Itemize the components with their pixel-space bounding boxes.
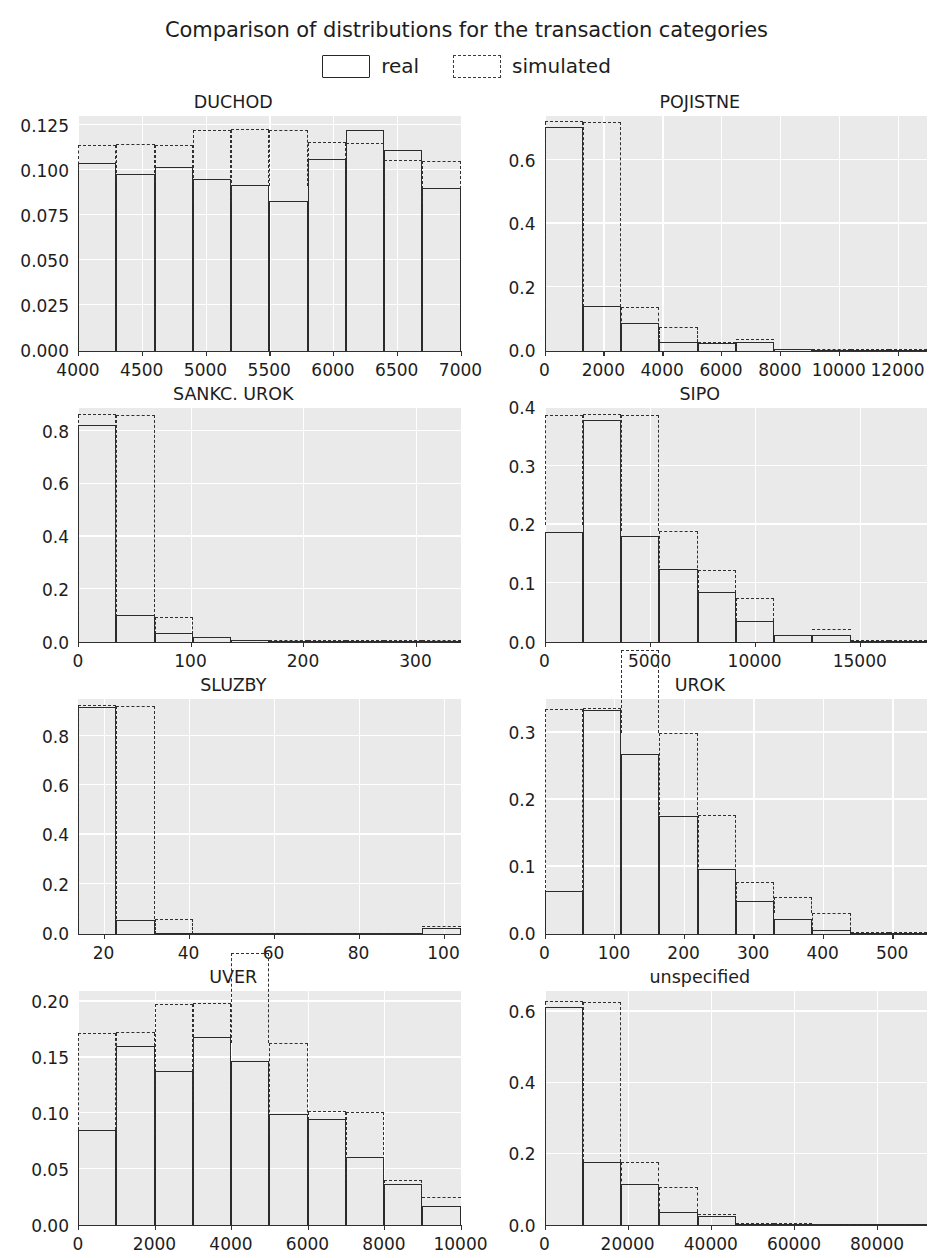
bar-simulated xyxy=(78,415,116,617)
panel-title: unspecified xyxy=(467,967,933,987)
plot-area-wrapper: 0.000.050.100.150.2002000400060008000100… xyxy=(0,991,467,1227)
bar-real xyxy=(231,1061,269,1225)
x-axis-tick-label: 5000 xyxy=(184,351,227,380)
bar-simulated xyxy=(851,932,889,933)
x-axis-tick-label: 2000 xyxy=(133,1225,176,1254)
x-axis-tick-label: 20000 xyxy=(601,1225,655,1254)
bar-simulated xyxy=(659,531,697,577)
y-axis-tick-label: 0.05 xyxy=(31,1160,78,1180)
bar-simulated xyxy=(116,706,154,919)
x-axis-tick-label: 400 xyxy=(806,934,838,963)
x-axis-tick-label: 4000 xyxy=(641,351,684,380)
bar-simulated xyxy=(583,1002,621,1163)
x-axis-tick-label: 4000 xyxy=(209,1225,252,1254)
x-axis-tick-label: 4500 xyxy=(120,351,163,380)
bar-simulated xyxy=(583,709,621,893)
bar-simulated xyxy=(346,640,384,641)
x-axis-tick-label: 6000 xyxy=(286,1225,329,1254)
bar-simulated xyxy=(621,307,659,327)
x-axis-tick-label: 12000 xyxy=(871,351,925,380)
bar-real xyxy=(422,928,460,934)
plot-area-wrapper: 0.00.20.40.60.80100200300 xyxy=(0,408,467,644)
y-axis-tick-label: 0.00 xyxy=(31,1216,78,1236)
bar-simulated xyxy=(155,145,193,183)
y-axis-tick-label: 0.6 xyxy=(508,151,544,171)
bar-simulated xyxy=(889,1224,927,1225)
bar-real xyxy=(621,1184,659,1225)
bar-simulated xyxy=(736,598,774,626)
legend-label-simulated: simulated xyxy=(512,54,611,78)
x-axis-tick-label: 0 xyxy=(539,934,550,963)
y-axis-tick-label: 0.2 xyxy=(508,515,544,535)
bar-simulated xyxy=(231,130,269,202)
bar-simulated xyxy=(308,143,346,186)
bar-simulated xyxy=(193,933,231,934)
x-axis-tick-label: 100 xyxy=(598,934,630,963)
panel-sluzby: SLUZBY0.00.20.40.60.820406080100 xyxy=(0,675,467,967)
bar-real xyxy=(422,188,460,350)
x-axis-tick-label: 8000 xyxy=(758,351,801,380)
bar-simulated xyxy=(116,415,154,617)
x-axis-tick-label: 10000 xyxy=(728,642,782,671)
bar-simulated xyxy=(774,1223,812,1224)
x-axis-tick-label: 80000 xyxy=(850,1225,904,1254)
legend-swatch-simulated-icon xyxy=(453,55,501,78)
x-axis-tick-label: 20 xyxy=(93,934,115,963)
bar-simulated xyxy=(384,1180,422,1197)
panel-uver: UVER0.000.050.100.150.200200040006000800… xyxy=(0,967,467,1258)
panel-title: SANKC. UROK xyxy=(0,384,467,404)
bar-simulated xyxy=(231,933,269,934)
bar-simulated xyxy=(346,1112,384,1180)
bar-simulated xyxy=(384,933,422,934)
bar-real xyxy=(851,641,889,642)
bar-simulated xyxy=(78,706,116,919)
bar-simulated xyxy=(889,640,927,641)
y-axis-tick-label: 0.075 xyxy=(20,206,78,226)
bar-simulated xyxy=(422,161,460,204)
bar-real xyxy=(116,920,154,933)
bar-real xyxy=(774,919,812,933)
x-axis-tick-label: 40 xyxy=(178,934,200,963)
x-axis-tick-label: 0 xyxy=(73,1225,84,1254)
bar-real xyxy=(308,159,346,350)
bar-simulated xyxy=(736,1223,774,1224)
bar-simulated xyxy=(851,349,889,350)
bar-simulated xyxy=(774,635,812,636)
bar-simulated xyxy=(698,570,736,598)
panel-urok: UROK0.00.10.20.30100200300400500 xyxy=(467,675,933,967)
bar-simulated xyxy=(231,640,269,641)
x-axis-tick-label: 0 xyxy=(539,351,550,380)
bar-simulated xyxy=(583,122,621,307)
y-axis-tick-label: 0.15 xyxy=(31,1048,78,1068)
x-axis-tick-label: 4000 xyxy=(56,351,99,380)
bar-simulated xyxy=(308,933,346,934)
bar-simulated xyxy=(774,897,812,914)
bar-simulated xyxy=(889,349,927,350)
bar-real xyxy=(736,1224,774,1225)
y-axis-tick-label: 0.0 xyxy=(42,924,78,944)
bar-simulated xyxy=(545,1002,583,1163)
bar-real xyxy=(621,754,659,934)
figure-root: Comparison of distributions for the tran… xyxy=(0,0,933,1258)
bar-series-group xyxy=(545,699,928,934)
x-axis-tick-label: 0 xyxy=(539,1225,550,1254)
x-axis-tick-label: 5500 xyxy=(248,351,291,380)
panel-pojistne: POJISTNE0.00.20.40.602000400060008000100… xyxy=(467,92,933,384)
y-axis-tick-label: 0.20 xyxy=(31,992,78,1012)
axes: 0.000.050.100.150.2002000400060008000100… xyxy=(78,991,461,1227)
x-axis-tick-label: 100 xyxy=(174,642,206,671)
bar-simulated xyxy=(308,640,346,641)
bar-real xyxy=(545,532,583,642)
gridline-vertical xyxy=(461,991,462,1226)
bar-real xyxy=(422,1206,460,1225)
bar-simulated xyxy=(193,637,231,638)
panel-sipo: SIPO0.00.10.20.30.4050001000015000 xyxy=(467,384,933,676)
bar-simulated xyxy=(78,145,116,170)
bar-real xyxy=(698,592,736,642)
x-axis-tick-label: 0 xyxy=(73,642,84,671)
y-axis-tick-label: 0.1 xyxy=(508,574,544,594)
bar-real xyxy=(193,179,231,350)
x-axis-tick-label: 500 xyxy=(876,934,908,963)
y-axis-tick-label: 0.2 xyxy=(508,1144,544,1164)
bar-real xyxy=(774,635,812,642)
